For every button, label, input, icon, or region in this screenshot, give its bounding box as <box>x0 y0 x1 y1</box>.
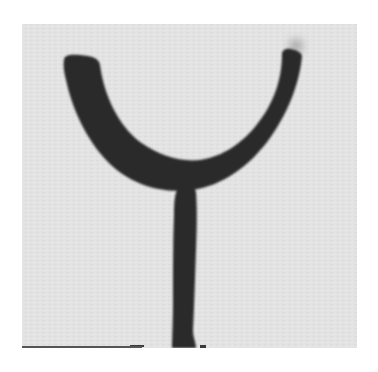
photo-bottom-border <box>22 346 142 348</box>
photograph <box>22 24 357 348</box>
y-shaped-object <box>22 24 357 348</box>
image-canvas <box>0 0 378 372</box>
